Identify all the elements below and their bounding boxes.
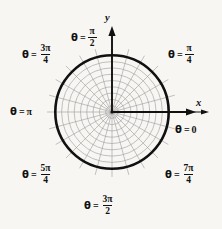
theta-symbol: θ	[22, 170, 29, 180]
origin-dot	[110, 110, 113, 113]
theta-symbol: θ	[168, 50, 175, 60]
angle-label-theta-3pi-2: θ = 3π 2	[84, 195, 115, 216]
x-axis-label: x	[196, 97, 201, 108]
angle-label-theta-pi: θ = π	[10, 107, 32, 117]
equals-sign: =	[173, 170, 181, 180]
angle-label-theta-0: θ = 0	[175, 125, 197, 135]
theta-symbol: θ	[22, 50, 29, 60]
theta-symbol: θ	[71, 33, 78, 43]
equals-sign: =	[30, 50, 38, 60]
y-axis	[108, 26, 115, 112]
fraction-3pi-over-4: 3π 4	[39, 44, 53, 65]
equals-sign: =	[79, 33, 87, 43]
y-axis-label: y	[105, 12, 110, 23]
angle-label-theta-7pi-4: θ = 7π 4	[165, 164, 196, 185]
theta-symbol: θ	[84, 201, 91, 211]
theta-symbol: θ	[175, 125, 182, 135]
theta-symbol: θ	[165, 170, 172, 180]
angle-label-theta-pi-2: θ = π 2	[71, 27, 97, 48]
fraction-7pi-over-4: 7π 4	[182, 164, 196, 185]
equals-sign: =	[176, 50, 184, 60]
fraction-5pi-over-4: 5π 4	[39, 164, 53, 185]
value-pi: π	[27, 107, 32, 117]
fraction-3pi-over-2: 3π 2	[101, 195, 115, 216]
equals-sign: =	[18, 107, 26, 117]
angle-label-theta-5pi-4: θ = 5π 4	[22, 164, 53, 185]
value-zero: 0	[192, 125, 197, 135]
angle-label-theta-pi-4: θ = π 4	[168, 44, 194, 65]
theta-symbol: θ	[10, 107, 17, 117]
y-axis-arrowhead	[108, 26, 115, 36]
fraction-pi-over-2: π 2	[88, 27, 97, 48]
equals-sign: =	[183, 125, 191, 135]
fraction-pi-over-4: π 4	[185, 44, 194, 65]
angle-label-theta-3pi-4: θ = 3π 4	[22, 44, 53, 65]
equals-sign: =	[92, 201, 100, 211]
equals-sign: =	[30, 170, 38, 180]
